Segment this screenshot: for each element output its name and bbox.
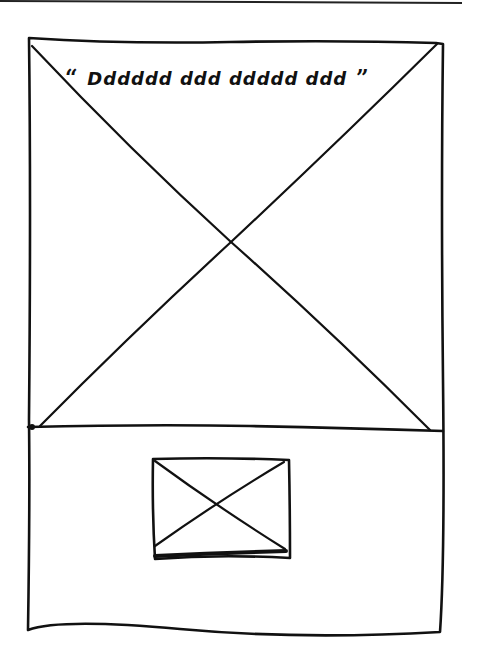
hero-quote: “ Dddddd ddd ddddd ddd ”: [65, 64, 405, 104]
quote-placeholder-text: Dddddd ddd ddddd ddd: [87, 68, 347, 89]
quote-close-mark: ”: [356, 64, 370, 90]
quote-open-mark: “: [65, 64, 79, 90]
outer-frame: [28, 38, 444, 635]
section-divider: [28, 425, 443, 431]
